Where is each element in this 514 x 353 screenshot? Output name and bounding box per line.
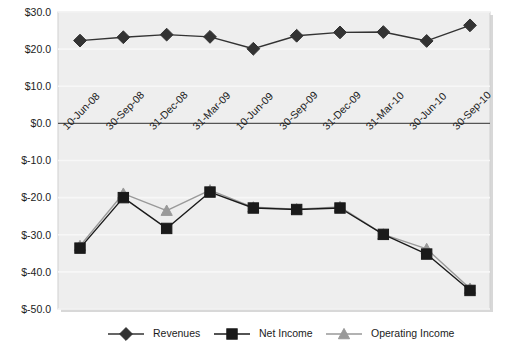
square-icon xyxy=(465,285,475,295)
y-axis-tick-label: $-40.0 xyxy=(21,266,51,278)
y-axis-tick-labels: $30.0$20.0$10.0$0.0$-10.0$-20.0$-30.0$-4… xyxy=(21,6,51,315)
y-axis-tick-label: $-50.0 xyxy=(21,303,51,315)
legend-item-revenues[interactable]: Revenues xyxy=(108,327,200,340)
y-axis-tick-label: $-10.0 xyxy=(21,154,51,166)
y-axis-tick-label: $20.0 xyxy=(25,43,51,55)
chart-container: $30.0$20.0$10.0$0.0$-10.0$-20.0$-30.0$-4… xyxy=(0,0,514,353)
legend-label: Operating Income xyxy=(371,327,455,339)
square-icon xyxy=(205,187,215,197)
square-icon xyxy=(248,203,258,213)
legend-item-net-income[interactable]: Net Income xyxy=(214,327,313,339)
square-icon xyxy=(421,249,431,259)
square-icon xyxy=(161,223,171,233)
legend-label: Revenues xyxy=(153,327,200,339)
y-axis-tick-label: $0.0 xyxy=(31,117,52,129)
square-icon xyxy=(335,203,345,213)
y-axis-tick-label: $30.0 xyxy=(25,6,51,18)
chart-legend: RevenuesNet IncomeOperating Income xyxy=(108,327,455,340)
square-icon xyxy=(291,204,301,214)
y-axis-tick-label: $-20.0 xyxy=(21,191,51,203)
y-axis-tick-label: $-30.0 xyxy=(21,229,51,241)
square-icon xyxy=(378,229,388,239)
legend-label: Net Income xyxy=(259,327,313,339)
y-axis-tick-label: $10.0 xyxy=(25,80,51,92)
square-icon xyxy=(118,192,128,202)
diamond-icon xyxy=(120,328,133,341)
square-icon xyxy=(75,243,85,253)
square-icon xyxy=(227,329,237,339)
line-chart: $30.0$20.0$10.0$0.0$-10.0$-20.0$-30.0$-4… xyxy=(0,0,514,353)
legend-item-operating-income[interactable]: Operating Income xyxy=(326,327,455,339)
